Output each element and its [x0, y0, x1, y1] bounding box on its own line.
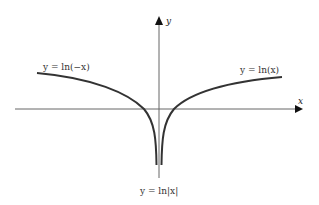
- y-axis-arrow-icon: [155, 16, 163, 25]
- y-axis-label: y: [165, 16, 172, 26]
- combined-label-ln-abs-x: y = ln|x|: [139, 186, 178, 197]
- curve-ln-negative-x: [37, 73, 157, 165]
- x-axis-label: x: [298, 96, 303, 106]
- x-axis-arrow-icon: [295, 105, 303, 113]
- ln-abs-x-graph: x y y = ln(−x) y = ln(x) y = ln|x|: [0, 0, 319, 205]
- curve-label-ln-x: y = ln(x): [239, 65, 279, 75]
- curve-ln-x: [162, 77, 283, 165]
- curve-label-ln-negative-x: y = ln(−x): [42, 62, 90, 72]
